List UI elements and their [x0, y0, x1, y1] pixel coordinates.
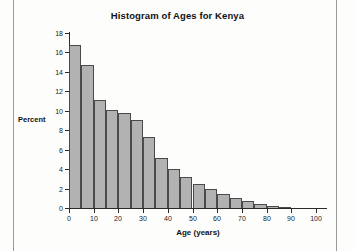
x-tick-mark [118, 209, 119, 213]
y-tick-label: 14 [23, 69, 63, 76]
histogram-bar [69, 45, 81, 208]
x-tick-label: 60 [205, 215, 229, 223]
histogram-plot-area: 024681012141618 0102030405060708090100 P… [0, 0, 355, 251]
histogram-bar [254, 204, 266, 208]
x-tick-label: 0 [57, 215, 81, 223]
y-axis-title: Percent [18, 115, 46, 124]
x-axis-line [69, 208, 327, 209]
histogram-bar [106, 110, 118, 208]
y-tick-mark [65, 33, 69, 34]
x-tick-label: 80 [255, 215, 279, 223]
histogram-bar [143, 137, 155, 208]
y-tick-label: 10 [23, 108, 63, 115]
x-tick-mark [168, 209, 169, 213]
histogram-bar [217, 194, 229, 208]
histogram-bar [279, 207, 291, 208]
x-tick-label: 50 [181, 215, 205, 223]
histogram-bar [267, 206, 279, 208]
y-tick-label: 16 [23, 49, 63, 56]
x-tick-label: 90 [279, 215, 303, 223]
histogram-bar [81, 65, 93, 208]
x-tick-mark [69, 209, 70, 213]
y-tick-label: 2 [23, 186, 63, 193]
figure-page: Histogram of Ages for Kenya 024681012141… [0, 0, 355, 251]
x-tick-mark [267, 209, 268, 213]
x-tick-label: 10 [82, 215, 106, 223]
histogram-bar [180, 177, 192, 208]
x-tick-label: 30 [131, 215, 155, 223]
histogram-bar [131, 120, 143, 208]
histogram-bar [94, 100, 106, 208]
x-tick-mark [242, 209, 243, 213]
histogram-bar [230, 198, 242, 208]
x-tick-label: 100 [304, 215, 328, 223]
histogram-bar [242, 201, 254, 208]
x-tick-mark [291, 209, 292, 213]
x-tick-label: 40 [156, 215, 180, 223]
x-tick-mark [316, 209, 317, 213]
x-tick-mark [143, 209, 144, 213]
x-tick-label: 70 [230, 215, 254, 223]
y-tick-label: 0 [23, 205, 63, 212]
x-axis-title: Age (years) [69, 228, 327, 237]
y-tick-label: 18 [23, 30, 63, 37]
x-tick-mark [193, 209, 194, 213]
y-tick-label: 6 [23, 147, 63, 154]
histogram-bar [168, 169, 180, 208]
histogram-bar [155, 158, 167, 208]
y-tick-label: 12 [23, 88, 63, 95]
y-tick-label: 8 [23, 127, 63, 134]
x-tick-mark [217, 209, 218, 213]
x-tick-label: 20 [106, 215, 130, 223]
histogram-bar [205, 189, 217, 208]
x-tick-mark [94, 209, 95, 213]
y-tick-label: 4 [23, 166, 63, 173]
histogram-bar [118, 113, 130, 208]
histogram-bar [193, 184, 205, 208]
